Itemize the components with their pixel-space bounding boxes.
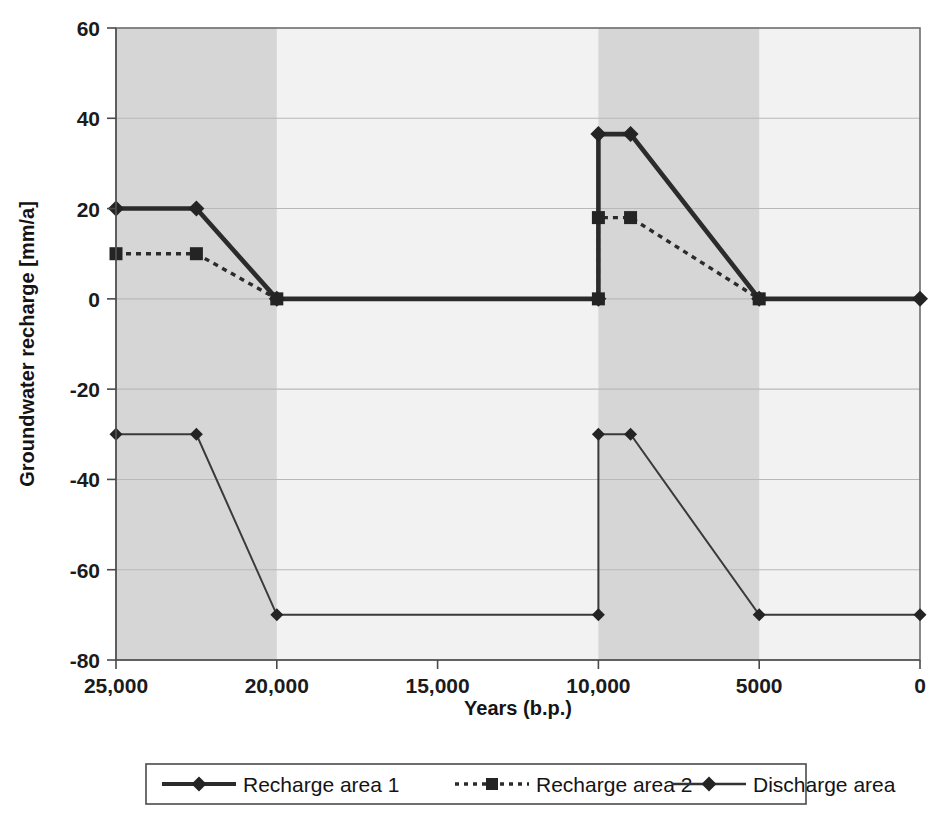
y-tick-label-20: 20	[77, 198, 100, 221]
x-tick-label-10000: 10,000	[566, 674, 630, 697]
chart-legend: Recharge area 1Recharge area 2Discharge …	[146, 764, 896, 804]
x-tick-label-15000: 15,000	[405, 674, 469, 697]
x-tick-label-20000: 20,000	[245, 674, 309, 697]
data-point-marker	[624, 211, 637, 224]
shaded-band-1	[598, 28, 759, 660]
data-point-marker	[270, 292, 283, 305]
data-point-marker	[592, 292, 605, 305]
legend-sample-marker-1	[486, 778, 498, 790]
y-tick-label-60: 60	[77, 17, 100, 40]
x-tick-label-25000: 25,000	[84, 674, 148, 697]
data-point-marker	[190, 247, 203, 260]
legend-label-0: Recharge area 1	[243, 773, 399, 796]
plot-area	[108, 28, 928, 660]
legend-label-2: Discharge area	[753, 773, 896, 796]
shaded-band-0	[116, 28, 277, 660]
data-point-marker	[592, 211, 605, 224]
x-tick-label-5000: 5000	[736, 674, 783, 697]
data-point-marker	[753, 292, 766, 305]
y-tick-label-40: 40	[77, 107, 100, 130]
y-tick-label--80: -80	[70, 649, 100, 672]
y-tick-label-0: 0	[88, 288, 100, 311]
chart-figure: 6040200-20-40-60-80 Groundwater recharge…	[0, 0, 949, 826]
x-axis-title: Years (b.p.)	[464, 697, 572, 719]
y-tick-label--60: -60	[70, 559, 100, 582]
y-tick-label--20: -20	[70, 378, 100, 401]
x-tick-label-0: 0	[914, 674, 926, 697]
legend-label-1: Recharge area 2	[536, 773, 692, 796]
y-tick-label--40: -40	[70, 468, 100, 491]
y-axis-title: Groundwater recharge [mm/a]	[16, 201, 38, 487]
groundwater-recharge-line-chart: 6040200-20-40-60-80 Groundwater recharge…	[0, 0, 949, 826]
